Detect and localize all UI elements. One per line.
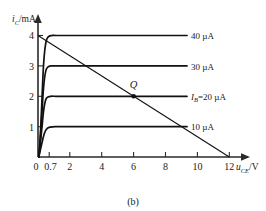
curve-label-20ua: IB=20 µA [190, 92, 226, 104]
chart-canvas: 1 2 3 4 0 0.7 2 4 6 8 10 12 iC/mA uCE/V … [0, 0, 266, 211]
y-tick-label-4: 4 [29, 30, 34, 41]
curve-label-30ua: 30 µA [191, 62, 214, 72]
x-axis-label-unit: /V [249, 162, 259, 172]
y-axis-label: iC/mA [12, 14, 36, 26]
x-tick-label-10: 10 [192, 161, 202, 172]
curve-30ua [39, 66, 187, 157]
x-tick-label-8: 8 [163, 161, 168, 172]
figure-output-characteristics: 1 2 3 4 0 0.7 2 4 6 8 10 12 iC/mA uCE/V … [0, 0, 266, 211]
y-tick-label-2: 2 [29, 91, 34, 102]
x-tick-label-0: 0 [34, 161, 39, 172]
x-tick-label-2: 2 [67, 161, 72, 172]
x-axis-arrowhead [241, 153, 250, 161]
curve-label-10ua: 10 µA [191, 122, 214, 132]
x-tick-label-6: 6 [131, 161, 136, 172]
x-axis-label-sub: CE [241, 167, 249, 174]
q-point-label: Q [130, 79, 138, 90]
x-tick-label-0p7: 0.7 [44, 161, 57, 172]
y-axis-label-unit: /mA [19, 14, 36, 24]
y-tick-label-3: 3 [29, 61, 34, 72]
curve-label-40ua: 40 µA [191, 31, 214, 41]
x-tick-label-4: 4 [99, 161, 104, 172]
x-tick-label-12: 12 [224, 161, 234, 172]
y-tick-label-1: 1 [29, 122, 34, 133]
curve-label-20ua-rest: =20 µA [198, 92, 227, 102]
figure-caption: (b) [0, 196, 266, 207]
q-point-marker [131, 94, 136, 99]
x-axis-label: uCE/V [236, 162, 259, 174]
curve-10ua [39, 127, 187, 157]
